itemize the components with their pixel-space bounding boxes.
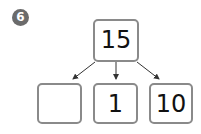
top-number-box: 15 [93, 19, 139, 62]
child-box-empty[interactable] [37, 83, 82, 124]
child-box-3: 10 [149, 83, 193, 124]
arrow-right [137, 62, 159, 79]
child-box-2: 1 [93, 83, 138, 124]
arrow-left [73, 62, 95, 79]
